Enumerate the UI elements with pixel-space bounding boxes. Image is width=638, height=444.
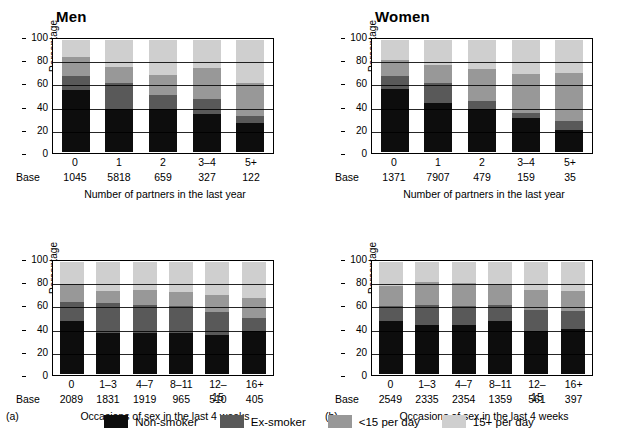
bar-segment bbox=[468, 109, 496, 152]
y-axis-tick-mark bbox=[22, 306, 26, 307]
legend-swatch-icon bbox=[328, 415, 352, 428]
x-axis-category-label: 1 bbox=[424, 156, 452, 169]
bar-segment bbox=[452, 306, 476, 325]
plot-area bbox=[371, 38, 593, 154]
bar-segment bbox=[62, 57, 90, 76]
x-axis-base-value: 7907 bbox=[424, 171, 452, 184]
stacked-bar bbox=[149, 40, 177, 152]
x-axis-base-value: 2354 bbox=[452, 393, 476, 406]
y-axis-tick-label: 0 bbox=[345, 369, 367, 383]
y-axis-tick-mark bbox=[341, 108, 345, 109]
bar-segment bbox=[381, 89, 409, 152]
bar-segment bbox=[561, 262, 585, 291]
bar-segment bbox=[133, 262, 157, 290]
y-axis-tick-mark bbox=[341, 84, 345, 85]
plot-area bbox=[52, 38, 274, 154]
stacked-bar bbox=[488, 262, 512, 374]
bar-segment bbox=[105, 83, 133, 110]
y-axis-ticks: 100806040200 bbox=[345, 253, 367, 383]
bar-segment bbox=[133, 305, 157, 333]
y-axis-tick-label: 80 bbox=[26, 54, 48, 68]
bar-segment bbox=[60, 284, 84, 302]
legend-swatch-icon bbox=[442, 415, 466, 428]
bar-segment bbox=[381, 40, 409, 60]
bar-segment bbox=[379, 262, 403, 286]
y-axis-tick-mark bbox=[22, 38, 26, 39]
stacked-bar bbox=[169, 262, 193, 374]
plot-area bbox=[52, 260, 274, 376]
y-axis-tick-label: 0 bbox=[26, 147, 48, 161]
stacked-bar bbox=[236, 40, 264, 152]
base-word-label: Base bbox=[16, 171, 40, 183]
bar-segment bbox=[488, 284, 512, 304]
stacked-bar bbox=[205, 262, 229, 374]
x-axis-base-value: 1831 bbox=[96, 393, 120, 406]
gridline bbox=[53, 62, 273, 63]
bar-segment bbox=[512, 40, 540, 74]
gridline bbox=[372, 109, 592, 110]
gridline bbox=[53, 85, 273, 86]
stacked-bar bbox=[524, 262, 548, 374]
bar-segment bbox=[555, 130, 583, 152]
stacked-bar bbox=[424, 40, 452, 152]
y-axis-tick-label: 40 bbox=[26, 101, 48, 115]
x-axis-base-value: 405 bbox=[243, 393, 267, 406]
stacked-bar bbox=[452, 262, 476, 374]
legend-label: <15 per day bbox=[359, 416, 420, 428]
bar-segment bbox=[149, 40, 177, 75]
x-axis-category-label: 0 bbox=[380, 156, 408, 169]
x-axis-base-row: 10455818659327122 bbox=[53, 171, 273, 184]
y-axis-tick-mark bbox=[22, 84, 26, 85]
x-axis-base-value: 965 bbox=[169, 393, 193, 406]
x-axis-base-value: 5818 bbox=[105, 171, 133, 184]
gridline bbox=[53, 331, 273, 332]
y-axis-tick-mark bbox=[22, 376, 26, 377]
x-axis-base-value: 1359 bbox=[488, 393, 512, 406]
y-axis-tick-mark bbox=[22, 108, 26, 109]
stacked-bar bbox=[96, 262, 120, 374]
stacked-bar bbox=[133, 262, 157, 374]
gridline bbox=[53, 354, 273, 355]
base-word-label: Base bbox=[16, 393, 40, 405]
x-axis-base-value: 35 bbox=[556, 171, 584, 184]
x-axis-category-label: 3–4 bbox=[193, 156, 221, 169]
gridline bbox=[372, 132, 592, 133]
y-axis-tick-mark bbox=[341, 131, 345, 132]
y-axis-tick-label: 60 bbox=[345, 299, 367, 313]
y-axis-tick-mark bbox=[341, 154, 345, 155]
bar-segment bbox=[169, 306, 193, 333]
x-axis-base-value: 510 bbox=[206, 393, 230, 406]
y-axis-ticks: 100806040200 bbox=[26, 31, 48, 161]
stacked-bar bbox=[62, 40, 90, 152]
legend-item: 15+ per day bbox=[442, 415, 534, 428]
bar-segment bbox=[149, 109, 177, 152]
bar-segment bbox=[96, 291, 120, 303]
y-axis-tick-label: 40 bbox=[345, 101, 367, 115]
y-axis-tick-mark bbox=[22, 353, 26, 354]
bar-segment bbox=[236, 83, 264, 117]
legend-label: Non-smoker bbox=[135, 416, 198, 428]
bar-group bbox=[373, 262, 591, 374]
y-axis-tick-label: 100 bbox=[345, 253, 367, 267]
x-axis-base-row: 1371790747915935 bbox=[372, 171, 592, 184]
y-axis-ticks: 100806040200 bbox=[26, 253, 48, 383]
y-axis-tick-label: 0 bbox=[26, 369, 48, 383]
bar-segment bbox=[561, 329, 585, 374]
bar-segment bbox=[381, 76, 409, 89]
panel-a-men: Men Percentage 100806040200 0123–45+ 104… bbox=[0, 2, 319, 212]
x-axis-title: Number of partners in the last year bbox=[359, 188, 609, 200]
legend-swatch-icon bbox=[104, 415, 128, 428]
y-axis-tick-label: 80 bbox=[345, 54, 367, 68]
bar-segment bbox=[524, 262, 548, 290]
bar-segment bbox=[524, 331, 548, 374]
bar-segment bbox=[415, 325, 439, 374]
stacked-bar bbox=[468, 40, 496, 152]
x-axis-base-value: 159 bbox=[512, 171, 540, 184]
y-axis-tick-label: 0 bbox=[345, 147, 367, 161]
bar-segment bbox=[96, 262, 120, 291]
bar-segment bbox=[242, 262, 266, 298]
bar-segment bbox=[62, 76, 90, 91]
stacked-bar bbox=[193, 40, 221, 152]
gridline bbox=[372, 85, 592, 86]
y-axis-tick-mark bbox=[341, 306, 345, 307]
